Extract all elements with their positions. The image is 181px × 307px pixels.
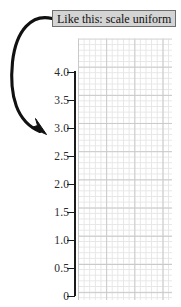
callout-label-box[interactable]: Like this: scale uniform bbox=[52, 10, 176, 27]
y-tick-label-2-5: 2.5 bbox=[54, 151, 69, 163]
y-tick-label-0-5: 0.5 bbox=[54, 263, 69, 275]
y-tick-label-4-0: 4.0 bbox=[54, 67, 69, 79]
callout-label-text: Like this: scale uniform bbox=[57, 13, 171, 25]
y-tick-label-1-0: 1.0 bbox=[54, 235, 69, 247]
y-tick-label-0: 0 bbox=[63, 291, 69, 303]
y-tick-label-1-5: 1.5 bbox=[54, 207, 69, 219]
y-tick-label-3-5: 3.5 bbox=[54, 95, 69, 107]
figure-canvas: 4.0 3.5 3.0 2.5 2.0 1.5 1.0 0.5 0 Like t… bbox=[0, 0, 181, 307]
y-tick-label-3-0: 3.0 bbox=[54, 123, 69, 135]
grid-top-fade bbox=[78, 34, 172, 40]
y-tick-label-2-0: 2.0 bbox=[54, 179, 69, 191]
plot-grid bbox=[78, 38, 172, 300]
